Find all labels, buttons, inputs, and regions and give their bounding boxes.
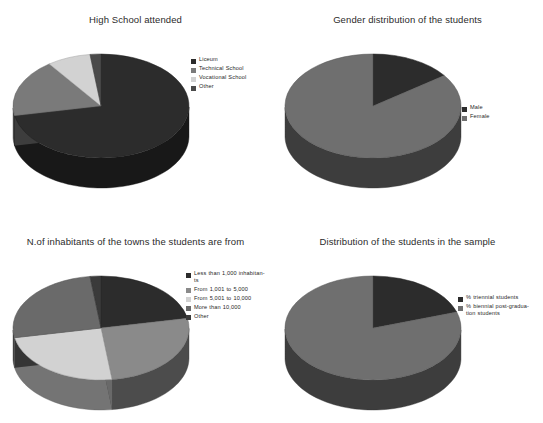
legend-label: Vocational School xyxy=(199,74,246,81)
legend-swatch-icon xyxy=(191,86,196,91)
legend-swatch-icon xyxy=(191,77,196,82)
legend-swatch-icon xyxy=(462,116,467,121)
legend-label: Other xyxy=(194,313,209,320)
chart-panel-distribution: Distribution of the students in the samp… xyxy=(272,222,543,423)
legend-item[interactable]: Other xyxy=(191,83,271,91)
chart-legend: Less than 1,000 inhabitan-tsFrom 1,001 t… xyxy=(186,270,266,322)
chart-panel-gender: Gender distribution of the students Male… xyxy=(272,0,543,211)
legend-swatch-icon xyxy=(186,315,191,320)
chart-legend: LiceumTechnical SchoolVocational SchoolO… xyxy=(191,56,271,92)
chart-title: Distribution of the students in the samp… xyxy=(272,236,543,248)
legend-item[interactable]: Less than 1,000 inhabitan-ts xyxy=(186,270,266,284)
legend-item[interactable]: Other xyxy=(186,313,266,321)
legend-item[interactable]: Female xyxy=(462,113,542,121)
legend-swatch-icon xyxy=(186,306,191,311)
legend-swatch-icon xyxy=(186,288,191,293)
legend-label: From 5,001 to 10,000 xyxy=(194,295,251,302)
legend-label: % triennial students xyxy=(466,294,518,301)
chart-title: Gender distribution of the students xyxy=(272,14,543,26)
legend-label: Female xyxy=(470,113,490,120)
legend-swatch-icon xyxy=(191,59,196,64)
legend-label: More than 10,000 xyxy=(194,304,241,311)
pie-chart-distribution xyxy=(278,254,468,414)
legend-swatch-icon xyxy=(186,273,191,278)
legend-label: Male xyxy=(470,104,483,111)
legend-item[interactable]: From 5,001 to 10,000 xyxy=(186,295,266,303)
legend-swatch-icon xyxy=(458,297,463,302)
chart-title: High School attended xyxy=(0,14,271,26)
legend-label: Technical School xyxy=(199,65,244,72)
chart-panel-inhabitants: N.of inhabitants of the towns the studen… xyxy=(0,222,271,423)
pie-chart-gender xyxy=(278,32,468,192)
chart-grid: High School attended LiceumTechnical Sch… xyxy=(0,0,543,423)
legend-item[interactable]: From 1,001 to 5,000 xyxy=(186,286,266,294)
legend-item[interactable]: Liceum xyxy=(191,56,271,64)
legend-item[interactable]: Male xyxy=(462,104,542,112)
legend-label: Liceum xyxy=(199,56,218,63)
legend-swatch-icon xyxy=(186,297,191,302)
legend-item[interactable]: Technical School xyxy=(191,65,271,73)
chart-title: N.of inhabitants of the towns the studen… xyxy=(0,236,271,248)
legend-label: Less than 1,000 inhabitan-ts xyxy=(194,270,266,284)
legend-label: From 1,001 to 5,000 xyxy=(194,286,248,293)
legend-label: % biennial post-gradua-tion students xyxy=(466,303,538,317)
legend-item[interactable]: Vocational School xyxy=(191,74,271,82)
legend-swatch-icon xyxy=(458,306,463,311)
legend-swatch-icon xyxy=(191,68,196,73)
chart-legend: % triennial students% biennial post-grad… xyxy=(458,294,538,319)
legend-item[interactable]: More than 10,000 xyxy=(186,304,266,312)
legend-swatch-icon xyxy=(462,107,467,112)
chart-panel-high-school: High School attended LiceumTechnical Sch… xyxy=(0,0,271,211)
legend-item[interactable]: % biennial post-gradua-tion students xyxy=(458,303,538,317)
pie-chart-inhabitants xyxy=(6,254,196,414)
legend-item[interactable]: % triennial students xyxy=(458,294,538,302)
chart-legend: MaleFemale xyxy=(462,104,542,122)
pie-chart-high-school xyxy=(6,32,196,192)
legend-label: Other xyxy=(199,83,214,90)
